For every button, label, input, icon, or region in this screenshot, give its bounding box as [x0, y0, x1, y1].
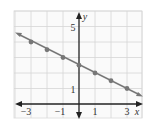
- data-point: [29, 40, 34, 45]
- y-axis-label: y: [82, 11, 88, 22]
- y-tick-label: 1: [71, 84, 76, 95]
- x-tick-label: −3: [21, 106, 32, 117]
- data-point: [109, 78, 114, 83]
- x-tick-label: −1: [55, 106, 66, 117]
- coordinate-plane: −3 −1 1 3 x 5 1 y: [0, 0, 150, 126]
- y-tick-label: 5: [71, 22, 76, 33]
- x-axis-label: x: [134, 106, 140, 117]
- x-tick-label: 1: [93, 106, 98, 117]
- data-point: [45, 47, 50, 52]
- data-point: [125, 86, 130, 91]
- data-point: [61, 55, 66, 60]
- data-point: [77, 63, 82, 68]
- data-point: [93, 71, 98, 76]
- x-tick-label: 3: [125, 106, 130, 117]
